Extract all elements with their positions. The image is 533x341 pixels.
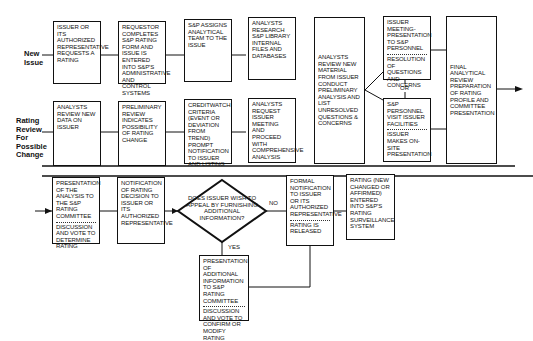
yes-label: YES bbox=[228, 244, 240, 250]
step-formal-notification: Formal notification to issuer or its aut… bbox=[286, 175, 334, 246]
step-text: Issuer meeting-presentation to S&P perso… bbox=[387, 19, 427, 52]
row-label-line: Change bbox=[16, 151, 47, 160]
step-final-review: Final analytical review preparation of r… bbox=[446, 16, 497, 164]
step-text: Resolution of questions and concerns bbox=[387, 56, 427, 89]
row-label-line: Issue bbox=[24, 59, 43, 68]
step-analysts-review-data: Analysts review new data on issuer bbox=[53, 101, 101, 166]
step-text: Presentation of additional information t… bbox=[203, 258, 245, 304]
decision-text: Does issuer wish to appeal by furnishing… bbox=[186, 195, 258, 221]
step-assigns-team: S&P assigns analytical team to the issue bbox=[184, 19, 232, 82]
step-analysts-review-material: Analysts review new material from issuer… bbox=[314, 17, 365, 164]
or-label: OR bbox=[400, 85, 409, 91]
step-text: Notification of rating decision to issue… bbox=[121, 180, 173, 226]
row-label-rating-review: Rating Review For Possible Change bbox=[16, 117, 47, 160]
step-text: Discussion and vote to confirm or modify… bbox=[203, 308, 245, 341]
step-additional-info: Presentation of additional information t… bbox=[199, 255, 249, 321]
step-visit-facilities: S&P personnel visit issuer facilities Is… bbox=[383, 98, 431, 162]
no-label: NO bbox=[269, 200, 278, 206]
step-notification: Notification of rating decision to issue… bbox=[117, 177, 165, 244]
step-text: Analysts review new data on issuer bbox=[57, 104, 95, 130]
step-issuer-requests: Issuer or its authorized representative … bbox=[53, 21, 101, 84]
step-text: Analysts request issuer meeting and proc… bbox=[252, 101, 303, 160]
step-text: Issuer makes on-site presentation bbox=[387, 131, 427, 157]
step-text: Preliminary review indicates possibility… bbox=[122, 104, 161, 143]
step-presentation-committee: Presentation of the analysis to the S&P … bbox=[52, 177, 100, 244]
step-text: Analysts research S&P library internal f… bbox=[252, 20, 290, 59]
row-label-new-issue: New Issue bbox=[24, 50, 43, 67]
dotted-divider bbox=[290, 220, 330, 221]
step-text: Creditwatch criteria (event or deviation… bbox=[188, 102, 231, 167]
step-text: S&P assigns analytical team to the issue bbox=[188, 22, 227, 48]
step-requestor-completes: Requestor completes S&P rating form and … bbox=[118, 21, 166, 84]
step-text: Rating is released bbox=[290, 222, 330, 235]
dotted-divider bbox=[387, 54, 427, 55]
dotted-divider bbox=[203, 306, 245, 307]
step-text: Issuer or its authorized representative … bbox=[57, 24, 109, 63]
step-text: Analysts review new material from issuer… bbox=[318, 54, 361, 127]
step-text: Formal notification to issuer or its aut… bbox=[290, 178, 330, 218]
step-preliminary-review: Preliminary review indicates possibility… bbox=[118, 101, 166, 166]
step-analysts-request-meeting: Analysts request issuer meeting and proc… bbox=[248, 98, 296, 163]
step-text: S&P personnel visit issuer facilities bbox=[387, 101, 427, 127]
dotted-divider bbox=[387, 129, 427, 130]
step-text: Presentation of the analysis to the S&P … bbox=[56, 180, 96, 220]
step-issuer-meeting: Issuer meeting-presentation to S&P perso… bbox=[383, 16, 431, 80]
step-rating-entered: Rating (new changed or affirmed) entered… bbox=[346, 174, 395, 240]
decision-diamond: Does issuer wish to appeal by furnishing… bbox=[183, 195, 261, 221]
dotted-divider bbox=[56, 222, 96, 223]
step-text: Rating (new changed or affirmed) entered… bbox=[350, 177, 394, 229]
step-text: Final analytical review preparation of r… bbox=[450, 64, 493, 117]
step-text: Discussion and vote to determine rating bbox=[56, 224, 96, 250]
step-creditwatch: Creditwatch criteria (event or deviation… bbox=[184, 99, 232, 164]
step-analysts-research: Analysts research S&P library internal f… bbox=[248, 17, 296, 80]
